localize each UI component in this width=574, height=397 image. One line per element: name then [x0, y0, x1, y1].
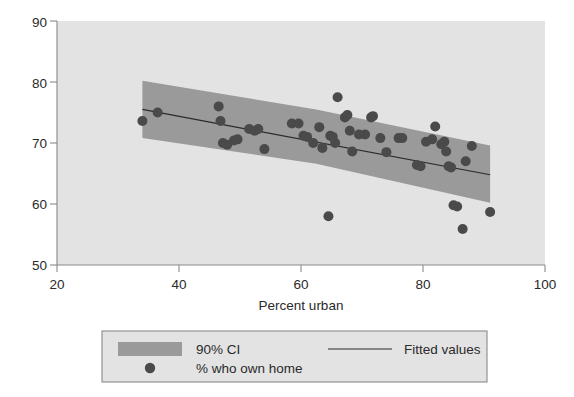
scatter-point	[323, 211, 333, 221]
scatter-point	[441, 147, 451, 157]
scatter-point	[485, 207, 495, 217]
legend-label-points: % who own home	[196, 361, 303, 376]
x-tick-label-80: 80	[415, 277, 430, 292]
scatter-point	[330, 138, 340, 148]
scatter-point	[430, 122, 440, 132]
scatter-point	[153, 108, 163, 118]
scatter-point	[458, 224, 468, 234]
scatter-point	[397, 133, 407, 143]
scatter-point	[439, 137, 449, 147]
x-tick-label-20: 20	[49, 277, 64, 292]
scatter-point	[137, 116, 147, 126]
legend-swatch-point-marker	[145, 363, 155, 373]
scatter-point	[416, 161, 426, 171]
y-tick-label-50: 50	[32, 258, 47, 273]
x-axis-title: Percent urban	[259, 298, 344, 313]
y-tick-label-60: 60	[32, 197, 47, 212]
x-tick-label-40: 40	[171, 277, 186, 292]
scatter-point	[214, 101, 224, 111]
scatter-point	[446, 162, 456, 172]
scatter-point	[375, 133, 385, 143]
legend-swatch-ci	[118, 342, 182, 356]
scatter-point	[259, 144, 269, 154]
scatter-point	[317, 143, 327, 153]
scatter-point	[233, 134, 243, 144]
legend: 90% CI Fitted values % who own home	[102, 331, 487, 382]
scatter-point	[333, 92, 343, 102]
scatter-point	[347, 147, 357, 157]
legend-label-fitted: Fitted values	[404, 342, 481, 357]
scatter-point	[345, 126, 355, 136]
scatter-point	[452, 201, 462, 211]
scatter-point	[342, 110, 352, 120]
scatter-plot-figure: 50 60 70 80 90 20 40 60 80 100 Percent u…	[0, 0, 574, 397]
scatter-point	[308, 138, 318, 148]
scatter-point	[467, 141, 477, 151]
scatter-point	[368, 111, 378, 121]
legend-label-ci: 90% CI	[196, 342, 240, 357]
scatter-point	[461, 156, 471, 166]
scatter-point	[294, 118, 304, 128]
y-tick-label-90: 90	[32, 15, 47, 30]
x-tick-label-60: 60	[293, 277, 308, 292]
scatter-point	[360, 129, 370, 139]
scatter-point	[253, 124, 263, 134]
scatter-point	[215, 116, 225, 126]
y-tick-label-70: 70	[32, 136, 47, 151]
x-tick-label-100: 100	[534, 277, 557, 292]
scatter-point	[427, 134, 437, 144]
scatter-point	[381, 147, 391, 157]
y-tick-label-80: 80	[32, 76, 47, 91]
scatter-point	[314, 122, 324, 132]
